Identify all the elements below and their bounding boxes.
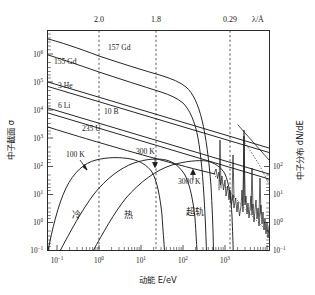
left-tick-label-7: 10−1: [30, 245, 43, 255]
arrow-300k-head: [153, 163, 158, 168]
left-tick-label-5: 101: [33, 189, 43, 199]
label-u235: 235 U: [82, 124, 101, 133]
curve-resonance-structure: [214, 136, 269, 238]
bottom-axis-ticks: [49, 245, 267, 251]
left-tick-label-6: 100: [33, 217, 43, 227]
label-li6: 6 Li: [58, 101, 70, 110]
isotope-labels: 157 Gd 155 Gd 3 He 6 Li 10 B 235 U: [54, 43, 131, 133]
right-tick-label-3: 10−1: [273, 245, 286, 255]
left-axis-tick-labels: 106 105 104 103 102 101 100 10−1: [30, 49, 43, 256]
curve-300k: [60, 159, 197, 251]
right-tick-label-2: 100: [273, 217, 283, 227]
right-tick-label-0: 102: [273, 161, 283, 171]
label-he3: 3 He: [58, 81, 73, 90]
neutron-cross-section-figure: 2.0 1.8 0.29 λ/Å: [0, 0, 315, 295]
left-tick-label-4: 102: [33, 161, 43, 171]
curve-resonance-spike-3: [243, 130, 245, 205]
curve-li6-lower: [48, 113, 269, 179]
curve-li6: [48, 108, 269, 174]
left-tick-label-2: 104: [33, 105, 43, 115]
region-labels: 冷 热 超轨: [72, 206, 204, 220]
left-axis-ticks: [48, 34, 54, 251]
label-b10: 10 B: [104, 107, 119, 116]
left-tick-label-3: 103: [33, 133, 43, 143]
top-axis-group: 2.0 1.8 0.29 λ/Å: [94, 15, 264, 24]
curve-b10: [48, 87, 269, 153]
right-axis-title: 中子分布 dN/dE: [295, 120, 305, 180]
curve-100k: [48, 158, 165, 251]
top-tick-label-0: 2.0: [94, 15, 104, 24]
dashed-gridlines: [99, 31, 230, 251]
label-gd155: 155 Gd: [54, 57, 77, 66]
bottom-tick-label-2: 101: [136, 255, 146, 265]
label-gd157: 157 Gd: [108, 43, 131, 52]
curve-resonance-spike-5: [259, 178, 261, 216]
arrow-3000k-head: [191, 170, 196, 175]
top-tick-label-2: 0.29: [223, 15, 237, 24]
left-tick-label-0: 106: [33, 49, 43, 59]
arrow-100k-head: [83, 165, 87, 170]
top-axis-title: λ/Å: [252, 15, 264, 24]
label-cold: 冷: [72, 209, 81, 220]
label-300k: 300 K: [136, 147, 155, 156]
label-3000k: 3000 K: [178, 177, 201, 186]
bottom-axis-title: 动能 E/eV: [139, 275, 177, 285]
top-tick-label-1: 1.8: [151, 15, 161, 24]
right-tick-label-1: 101: [273, 189, 283, 199]
bottom-tick-label-1: 100: [94, 255, 104, 265]
left-tick-label-1: 105: [33, 77, 43, 87]
left-axis-title: 中子截面 σ: [6, 119, 16, 160]
label-epithermal: 超轨: [186, 206, 204, 217]
curve-he3: [48, 82, 269, 148]
curve-resonance-spike-2: [232, 155, 234, 200]
bottom-axis-tick-labels: 10−1 100 101 102 103: [51, 255, 231, 265]
label-thermal: 热: [124, 209, 133, 220]
curve-u235-highenergy: [238, 125, 269, 160]
bottom-tick-label-4: 103: [220, 255, 230, 265]
bottom-tick-label-3: 102: [178, 255, 188, 265]
bottom-tick-label-0: 10−1: [51, 255, 64, 265]
label-100k: 100 K: [66, 150, 85, 159]
right-axis-tick-labels: 102 101 100 10−1: [273, 161, 286, 255]
